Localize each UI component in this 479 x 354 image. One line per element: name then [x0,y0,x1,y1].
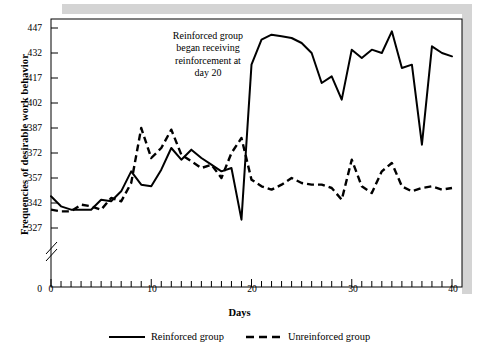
legend-swatch-solid [109,332,145,342]
x-tick-label-10: 10 [137,284,167,294]
chart-figure: Frequencies of desirable work behavior D… [0,0,479,354]
y-tick-label-447: 447 [8,23,42,33]
legend-entry-unreinforced: Unreinforced group [246,331,370,342]
chart-annotation: Reinforced group began receiving reinfor… [142,30,274,80]
top-gray-band [62,4,472,14]
annotation-line-2: began receiving [142,42,274,54]
legend-swatch-dashed [246,332,282,342]
y-tick-label-342: 342 [8,198,42,208]
right-gray-band [462,4,472,294]
chart-legend: Reinforced group Unreinforced group [0,331,479,342]
y-tick-label-327: 327 [8,223,42,233]
legend-label-unreinforced: Unreinforced group [288,331,370,342]
y-tick-label-417: 417 [8,73,42,83]
legend-label-reinforced: Reinforced group [151,331,224,342]
x-tick-label-20: 20 [237,284,267,294]
y-tick-label-387: 387 [8,123,42,133]
annotation-line-3: reinforcement at [142,55,274,67]
y-tick-label-402: 402 [8,98,42,108]
legend-entry-reinforced: Reinforced group [109,331,224,342]
series-line-unreinforced [51,128,452,211]
x-tick-label-30: 30 [338,284,368,294]
annotation-line-1: Reinforced group [142,30,274,42]
x-axis-title: Days [0,307,479,318]
x-tick-label-0: 0 [36,284,66,294]
y-tick-label-372: 372 [8,148,42,158]
x-tick-label-40: 40 [438,284,468,294]
y-tick-label-432: 432 [8,48,42,58]
y-tick-label-357: 357 [8,173,42,183]
annotation-line-4: day 20 [142,67,274,79]
